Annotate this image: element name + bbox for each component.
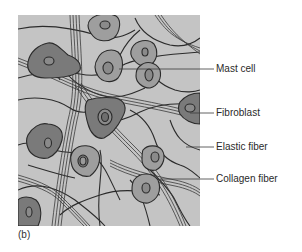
label-mast-cell: Mast cell [216, 63, 255, 75]
label-collagen-fiber: Collagen fiber [216, 173, 278, 185]
panel-label: (b) [18, 229, 30, 240]
label-fibroblast: Fibroblast [216, 107, 260, 119]
connective-tissue-diagram [0, 0, 302, 252]
label-elastic-fiber: Elastic fiber [216, 141, 268, 153]
